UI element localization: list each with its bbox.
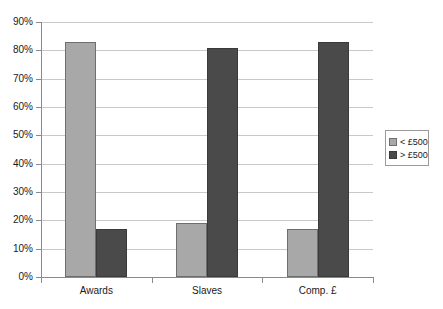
y-tick-label-40: 40% <box>0 159 33 169</box>
y-tick-mark-90 <box>36 22 41 23</box>
y-tick-mark-60 <box>36 107 41 108</box>
y-tick-label-60: 60% <box>0 102 33 112</box>
y-tick-mark-50 <box>36 135 41 136</box>
x-axis-label-1: Slaves <box>157 285 257 296</box>
y-tick-label-10: 10% <box>0 244 33 254</box>
y-tick-label-80: 80% <box>0 45 33 55</box>
y-tick-label-70: 70% <box>0 74 33 84</box>
bar-comp-series0 <box>287 229 318 277</box>
legend-swatch-light-icon <box>389 138 397 146</box>
x-tick-mark-0 <box>41 278 42 283</box>
legend-item-0: < £500 <box>389 135 425 148</box>
plot-area <box>41 22 373 277</box>
bar-awards-series1 <box>96 229 127 277</box>
legend-label-1: > £500 <box>400 150 428 160</box>
legend-swatch-dark-icon <box>389 151 397 159</box>
gridline-90 <box>41 22 373 23</box>
legend-item-1: > £500 <box>389 148 425 161</box>
legend-label-0: < £500 <box>400 137 428 147</box>
x-tick-mark-2 <box>262 278 263 283</box>
x-tick-mark-1 <box>152 278 153 283</box>
y-tick-mark-80 <box>36 50 41 51</box>
bar-chart: 90%80%70%60%50%40%30%20%10%0% AwardsSlav… <box>0 0 443 309</box>
y-axis-line <box>41 22 42 278</box>
y-tick-mark-20 <box>36 220 41 221</box>
y-tick-mark-30 <box>36 192 41 193</box>
y-tick-label-90: 90% <box>0 17 33 27</box>
y-tick-label-20: 20% <box>0 215 33 225</box>
y-tick-mark-70 <box>36 79 41 80</box>
legend: < £500 > £500 <box>385 130 429 166</box>
x-axis-line <box>41 277 374 278</box>
bar-slaves-series1 <box>207 48 238 278</box>
bar-slaves-series0 <box>176 223 207 277</box>
y-tick-mark-40 <box>36 164 41 165</box>
y-tick-label-30: 30% <box>0 187 33 197</box>
x-tick-mark-3 <box>373 278 374 283</box>
bar-comp-series1 <box>318 42 349 277</box>
y-tick-label-50: 50% <box>0 130 33 140</box>
x-axis-label-0: Awards <box>46 285 146 296</box>
bar-awards-series0 <box>65 42 96 277</box>
x-axis-label-2: Comp. £ <box>268 285 368 296</box>
y-tick-mark-10 <box>36 249 41 250</box>
y-tick-label-0: 0% <box>0 272 33 282</box>
